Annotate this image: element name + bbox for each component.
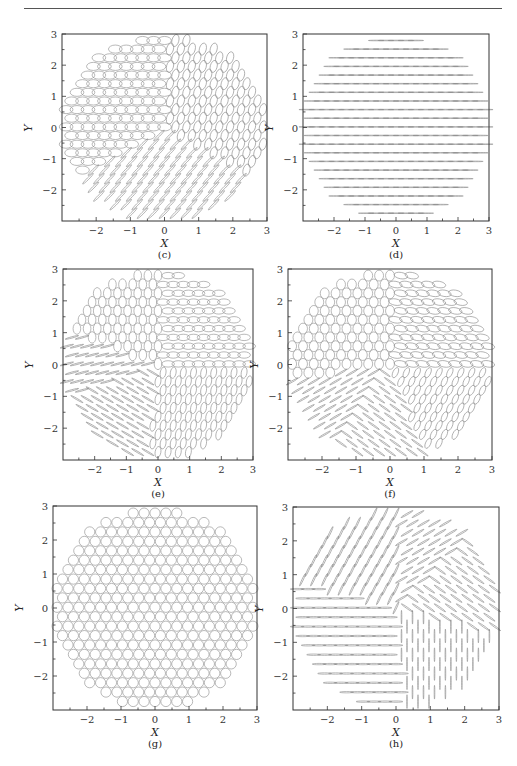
x-tick-label: 0 (161, 225, 167, 236)
y-tick-label: 1 (292, 91, 298, 102)
y-tick-label: −2 (268, 423, 283, 434)
x-tick-label: −1 (354, 714, 369, 725)
y-tick-label: 0 (42, 603, 48, 614)
y-tick-label: 2 (52, 295, 58, 306)
x-tick-label: −2 (320, 714, 335, 725)
panel-caption: (f) (384, 488, 396, 499)
panel-d: −2−10123−2−10123XY(d) (303, 34, 489, 221)
y-tick-label: 3 (282, 502, 288, 513)
x-tick-label: −1 (349, 464, 364, 475)
x-tick-label: 2 (218, 464, 224, 475)
panel-caption: (c) (158, 249, 171, 260)
y-tick-label: −1 (43, 391, 58, 402)
x-tick-label: 1 (421, 464, 427, 475)
y-tick-label: 0 (292, 122, 298, 133)
y-tick-label: 0 (52, 359, 58, 370)
x-tick-label: 1 (424, 225, 430, 236)
plot-area (63, 269, 253, 460)
x-tick-label: 0 (393, 714, 399, 725)
x-tick-label: −1 (123, 225, 138, 236)
panel-f: −2−10123−2−10123XY(f) (288, 269, 492, 460)
y-tick-label: −2 (273, 671, 288, 682)
y-tick-label: −1 (33, 637, 48, 648)
y-tick-label: 3 (51, 29, 57, 40)
y-axis-label: Y (253, 605, 266, 612)
y-tick-label: 2 (282, 535, 288, 546)
panel-caption: (h) (389, 738, 403, 749)
x-tick-label: 3 (250, 464, 256, 475)
x-tick-label: 2 (455, 464, 461, 475)
page-header-rule (24, 8, 502, 9)
x-tick-label: 1 (427, 714, 433, 725)
x-tick-label: 2 (230, 225, 236, 236)
axes-frame (288, 269, 492, 460)
y-tick-label: −1 (42, 153, 57, 164)
y-tick-label: −1 (283, 153, 298, 164)
y-axis-label: Y (22, 124, 35, 131)
polarization-glyphs (286, 270, 495, 456)
x-tick-label: 3 (254, 714, 260, 725)
plot-area (62, 34, 267, 221)
x-tick-label: 2 (461, 714, 467, 725)
y-tick-label: −2 (43, 423, 58, 434)
y-tick-label: 3 (42, 501, 48, 512)
y-tick-label: −2 (33, 671, 48, 682)
y-tick-label: 3 (292, 29, 298, 40)
polarization-glyphs (60, 270, 256, 458)
plot-area (288, 269, 492, 460)
y-tick-label: 1 (42, 569, 48, 580)
y-tick-label: 3 (52, 264, 58, 275)
x-tick-label: 2 (455, 225, 461, 236)
y-axis-label: Y (23, 361, 36, 368)
polarization-glyphs (290, 508, 501, 709)
x-tick-label: −2 (89, 225, 104, 236)
y-tick-label: 1 (52, 327, 58, 338)
x-tick-label: 3 (489, 464, 495, 475)
x-tick-label: 0 (152, 714, 158, 725)
y-tick-label: 3 (277, 264, 283, 275)
x-tick-label: 3 (264, 225, 270, 236)
x-tick-label: −1 (114, 714, 129, 725)
y-tick-label: 0 (51, 122, 57, 133)
panel-caption: (g) (148, 738, 162, 749)
y-tick-label: −1 (268, 391, 283, 402)
y-tick-label: 2 (51, 60, 57, 71)
panel-caption: (e) (151, 488, 165, 499)
x-tick-label: −2 (315, 464, 330, 475)
plot-area (53, 506, 257, 710)
y-tick-label: 1 (277, 327, 283, 338)
polarization-glyphs (59, 34, 268, 220)
polarization-glyphs (299, 40, 493, 213)
x-tick-label: −1 (358, 225, 373, 236)
plot-area (293, 507, 499, 710)
y-tick-label: 2 (292, 60, 298, 71)
x-tick-label: 1 (195, 225, 201, 236)
y-axis-label: Y (263, 124, 276, 131)
axes-frame (303, 34, 489, 221)
y-tick-label: 2 (277, 295, 283, 306)
x-tick-label: 3 (486, 225, 492, 236)
x-tick-label: 2 (220, 714, 226, 725)
panel-h: −2−10123−2−10123XY(h) (293, 507, 499, 710)
x-tick-label: −2 (87, 464, 102, 475)
y-tick-label: 2 (42, 535, 48, 546)
y-axis-label: Y (248, 361, 261, 368)
panel-caption: (d) (389, 249, 403, 260)
x-tick-label: 0 (393, 225, 399, 236)
y-tick-label: 0 (282, 603, 288, 614)
y-tick-label: 0 (277, 359, 283, 370)
x-tick-label: 0 (155, 464, 161, 475)
panel-e: −2−10123−2−10123XY(e) (63, 269, 253, 460)
y-tick-label: 1 (51, 91, 57, 102)
y-tick-label: −2 (283, 184, 298, 195)
x-tick-label: 1 (186, 714, 192, 725)
y-tick-label: 1 (282, 569, 288, 580)
x-tick-label: −1 (119, 464, 134, 475)
y-tick-label: −2 (42, 184, 57, 195)
x-tick-label: 1 (186, 464, 192, 475)
y-axis-label: Y (13, 604, 26, 611)
panel-g: −2−10123−2−10123XY(g) (53, 506, 257, 710)
polarization-glyphs (52, 508, 258, 707)
x-tick-label: −2 (80, 714, 95, 725)
x-tick-label: 3 (496, 714, 502, 725)
